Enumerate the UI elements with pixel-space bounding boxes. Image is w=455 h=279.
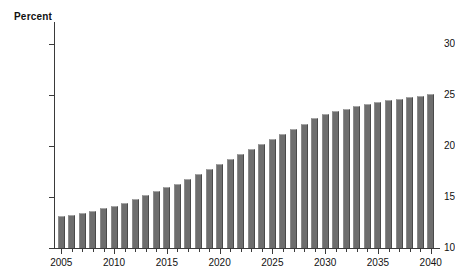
- bar: [417, 96, 424, 248]
- bars-layer: [0, 0, 455, 279]
- bar: [269, 139, 276, 248]
- bar: [89, 211, 96, 248]
- bar-chart: Percent 1015202530 200520102015202020252…: [0, 0, 455, 279]
- bar: [227, 159, 234, 248]
- bar: [406, 97, 413, 248]
- bar: [163, 187, 170, 248]
- bar: [427, 94, 434, 248]
- bar: [100, 208, 107, 248]
- bar: [195, 174, 202, 248]
- bar: [184, 179, 191, 248]
- bar: [353, 106, 360, 248]
- bar: [206, 169, 213, 248]
- bar: [121, 203, 128, 248]
- bar: [58, 216, 65, 248]
- bar: [374, 102, 381, 248]
- bar: [216, 164, 223, 248]
- bar: [153, 191, 160, 248]
- bar: [248, 149, 255, 248]
- bar: [301, 124, 308, 248]
- bar: [385, 100, 392, 248]
- bar: [343, 109, 350, 248]
- bar: [322, 114, 329, 248]
- bar: [332, 111, 339, 248]
- bar: [132, 199, 139, 248]
- bar: [279, 134, 286, 248]
- bar: [311, 118, 318, 248]
- bar: [237, 154, 244, 248]
- bar: [79, 213, 86, 248]
- bar: [396, 99, 403, 248]
- bar: [142, 195, 149, 248]
- bar: [364, 104, 371, 248]
- bar: [174, 184, 181, 248]
- bar: [68, 215, 75, 248]
- bar: [258, 144, 265, 248]
- bar: [111, 206, 118, 248]
- bar: [290, 129, 297, 248]
